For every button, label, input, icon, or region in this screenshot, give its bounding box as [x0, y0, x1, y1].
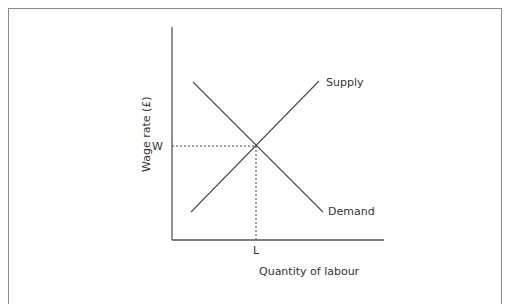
- supply-curve: [191, 81, 319, 212]
- l-tick-label: L: [253, 244, 260, 257]
- y-axis-label: Wage rate (£): [140, 96, 153, 172]
- supply-label: Supply: [326, 76, 364, 89]
- demand-label: Demand: [328, 205, 375, 218]
- demand-curve: [193, 82, 323, 212]
- w-tick-label: W: [152, 140, 163, 153]
- x-axis-label: Quantity of labour: [259, 265, 360, 278]
